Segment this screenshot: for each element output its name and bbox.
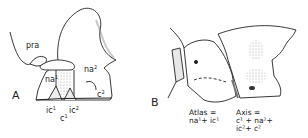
- panel-a-letter: A: [12, 90, 20, 101]
- label-ic2: ic2: [69, 104, 79, 115]
- label-ic1-text: ic: [46, 106, 53, 115]
- label-pra: pra: [26, 42, 39, 50]
- label-ic2-sup: 2: [76, 105, 79, 111]
- axis-caption-line3: ic²+ c²: [236, 125, 261, 133]
- label-na1-sup: 1: [55, 74, 58, 80]
- panel-a-drawing: [10, 8, 116, 100]
- atlas-caption-line2: na¹+ ic¹: [189, 117, 219, 125]
- panel-b-letter: B: [151, 97, 159, 108]
- label-na1-text: na: [45, 75, 55, 84]
- label-na1: na1: [45, 73, 58, 84]
- label-na2: na2: [84, 63, 97, 74]
- label-ic1-sup: 1: [53, 105, 56, 111]
- label-na2-sup: 2: [94, 64, 97, 70]
- label-c1-sup: 1: [64, 113, 67, 119]
- label-c2-sup: 2: [101, 89, 104, 95]
- label-ic2-text: ic: [69, 106, 76, 115]
- label-ic1: ic1: [46, 104, 56, 115]
- vertebra-figure: A pra na1 na2 c2 ic1 ic2 c1 B Atlas = na…: [0, 0, 308, 138]
- label-na2-text: na: [84, 65, 94, 74]
- label-c1: c1: [60, 112, 68, 123]
- label-c2: c2: [97, 88, 105, 99]
- panel-b-drawing: [168, 26, 296, 102]
